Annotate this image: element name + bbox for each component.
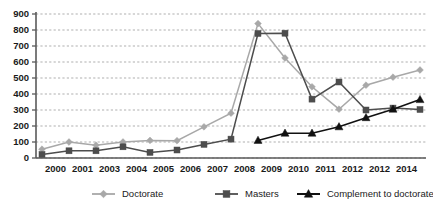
x-axis-tick-label: 2004 [126,163,148,174]
x-axis-tick-label: 2014 [396,163,418,174]
data-point-square [363,107,369,113]
chart-container: 0100200300400500600700800900 20002001200… [0,0,433,216]
legend-item-doctorate[interactable]: Doctorate [92,188,163,199]
x-axis-tick-label: 2000 [45,163,66,174]
y-axis-tick-label: 800 [13,24,29,35]
y-axis-tick-label: 500 [13,72,29,83]
data-point-diamond [201,123,208,130]
data-point-diamond [174,137,181,144]
legend-item-masters[interactable]: Masters [215,188,279,199]
data-point-square [93,148,99,154]
data-point-diamond [390,74,397,81]
data-point-square [282,30,288,36]
data-point-square [336,79,342,85]
x-axis-tick-label: 2012 [342,163,363,174]
y-axis-tick-label: 700 [13,40,29,51]
x-axis-tick-label: 2006 [180,163,201,174]
series-complement-to-doctorate [254,95,424,143]
y-axis-tick-label: 900 [13,8,29,19]
data-point-square [39,151,45,157]
x-axis-tick-label: 2012 [369,163,390,174]
data-point-square [174,147,180,153]
x-axis-tick-label: 2005 [153,163,175,174]
x-axis-tick-label: 2011 [315,163,336,174]
line-chart: 0100200300400500600700800900 20002001200… [0,0,433,216]
data-point-triangle [416,95,424,102]
legend-label: Complement to doctorate [327,188,433,199]
data-point-square [228,136,234,142]
y-axis-tick-label: 300 [13,104,29,115]
legend-item-complement-to-doctorate[interactable]: Complement to doctorate [297,188,433,199]
data-point-square [417,107,423,113]
y-axis-tick-label: 0 [24,152,29,163]
x-axis-tick-label: 2010 [288,163,309,174]
data-point-diamond [417,67,424,74]
series-line [42,24,420,150]
data-point-square [255,31,261,37]
data-point-square [120,144,126,150]
y-axis-tick-label: 400 [13,88,29,99]
data-point-diamond [100,190,108,198]
x-axis-tick-label: 2009 [261,163,282,174]
data-point-square [66,148,72,154]
x-axis-tick-label: 2001 [72,163,94,174]
y-axis-tick-label: 100 [13,136,29,147]
x-axis-tick-label: 2007 [207,163,228,174]
data-point-diamond [66,139,73,146]
x-axis-tick-label: 2008 [234,163,255,174]
data-point-diamond [228,110,235,117]
legend-label: Masters [245,188,279,199]
data-point-square [223,191,230,198]
y-axis-tick-label: 200 [13,120,29,131]
data-point-square [201,141,207,147]
data-point-square [147,149,153,155]
data-point-square [309,96,315,102]
data-series-layer [39,20,424,157]
x-axis-tick-labels: 2000200120032004200520062007200820092010… [45,163,418,174]
data-point-diamond [147,137,154,144]
y-axis-tick-labels: 0100200300400500600700800900 [13,8,29,163]
y-axis-tick-label: 600 [13,56,29,67]
legend-label: Doctorate [122,188,163,199]
x-axis-tick-label: 2003 [99,163,120,174]
series-doctorate [39,20,424,152]
chart-legend: DoctorateMastersComplement to doctorate [92,188,433,199]
